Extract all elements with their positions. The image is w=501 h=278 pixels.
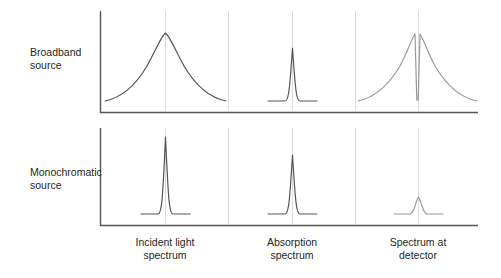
- column-label-absorption-spectrum: Absorption spectrum: [232, 236, 352, 261]
- column-label-spectrum-at-detector: Spectrum at detector: [358, 236, 478, 261]
- row-label-broadband: Broadband source: [30, 46, 96, 71]
- row-label-monochromatic: Monochromatic source: [30, 166, 100, 191]
- column-label-incident-light-spectrum: Incident light spectrum: [105, 236, 225, 261]
